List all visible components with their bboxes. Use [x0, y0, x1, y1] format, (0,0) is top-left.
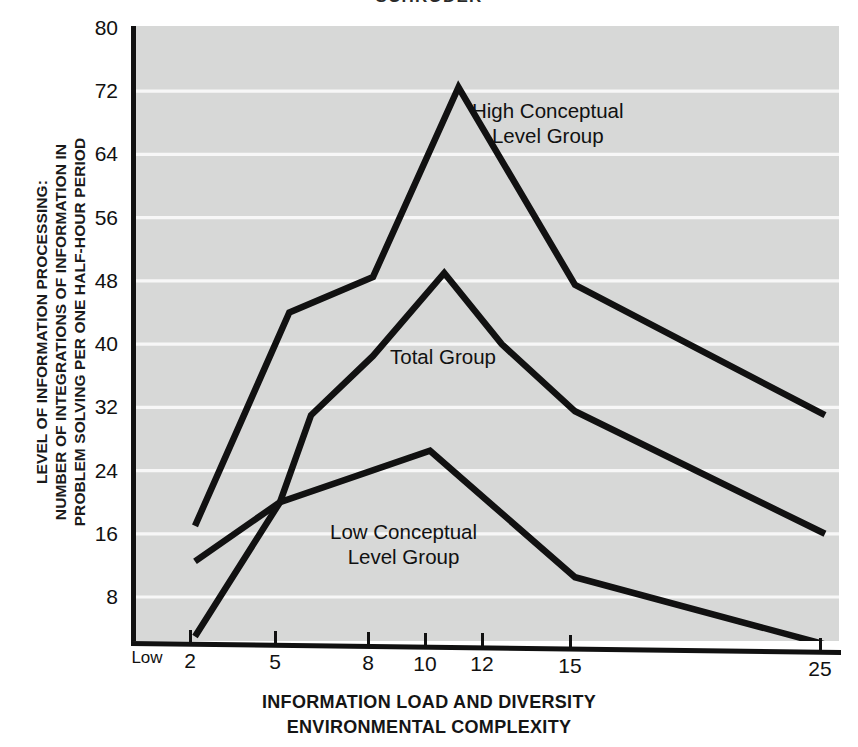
x-axis-title-line-2: ENVIRONMENTAL COMPLEXITY — [0, 715, 858, 740]
x-axis-title-line-1: INFORMATION LOAD AND DIVERSITY — [0, 690, 858, 715]
x-tick-mark-2 — [189, 630, 192, 646]
total-group-label-line-1: Total Group — [390, 344, 496, 369]
x-tick-label-5: 5 — [269, 650, 281, 674]
x-tick-label-2: 2 — [184, 649, 196, 673]
x-tick-label-low: Low — [131, 648, 162, 668]
x-axis-title: INFORMATION LOAD AND DIVERSITY ENVIRONME… — [0, 690, 858, 740]
x-tick-label-12: 12 — [470, 652, 493, 676]
chart-figure: SCHRODER LEVEL OF INFORMATION PROCESSING… — [0, 0, 858, 747]
x-tick-mark-15 — [569, 635, 572, 651]
x-tick-label-15: 15 — [558, 654, 581, 678]
x-tick-mark-25 — [819, 638, 822, 654]
x-tick-mark-8 — [367, 632, 370, 648]
high-conceptual-label: High ConceptualLevel Group — [472, 98, 624, 148]
low-conceptual-label-line-1: Low Conceptual — [330, 519, 477, 544]
x-tick-label-25: 25 — [808, 657, 831, 681]
total-group-label: Total Group — [390, 344, 496, 369]
low-conceptual-label-line-2: Level Group — [330, 544, 477, 569]
x-tick-mark-12 — [481, 633, 484, 649]
x-axis-tick-labels: Low25810121525 — [0, 0, 858, 747]
high-conceptual-label-line-1: High Conceptual — [472, 98, 624, 123]
low-conceptual-label: Low ConceptualLevel Group — [330, 519, 477, 569]
high-conceptual-label-line-2: Level Group — [472, 123, 624, 148]
x-tick-label-10: 10 — [413, 652, 436, 676]
x-tick-mark-5 — [274, 631, 277, 647]
x-tick-mark-10 — [424, 633, 427, 649]
x-tick-label-8: 8 — [362, 651, 374, 675]
